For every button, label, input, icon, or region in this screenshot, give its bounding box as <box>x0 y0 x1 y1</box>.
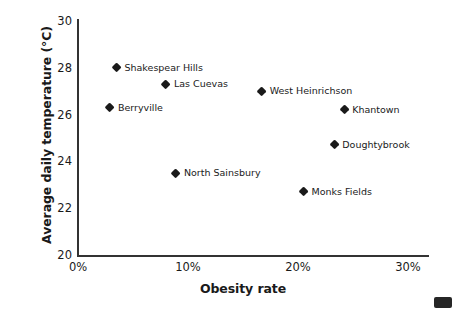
data-point-label: Monks Fields <box>312 185 372 199</box>
data-point-label: Doughtybrook <box>342 138 409 152</box>
diamond-marker-icon <box>257 86 267 96</box>
diamond-marker-icon <box>171 168 181 178</box>
data-point-label: West Heinrichson <box>270 84 353 98</box>
scatter-chart-figure: Shakespear HillsLas CuevasWest Heinrichs… <box>0 0 458 310</box>
y-axis-tick: 24 <box>8 154 72 168</box>
y-axis-line <box>77 19 79 257</box>
diamond-marker-icon <box>329 140 339 150</box>
y-axis-tick: 22 <box>8 201 72 215</box>
x-axis-tick-label: 0% <box>48 260 108 274</box>
diamond-marker-icon <box>161 79 171 89</box>
data-point-label: Shakespear Hills <box>125 61 203 75</box>
data-point-label: Berryville <box>118 101 163 115</box>
y-axis-title: Average daily temperature (°C) <box>32 0 62 270</box>
x-axis-tick-label: 10% <box>158 260 218 274</box>
y-axis-tick-label: 28 <box>12 61 72 75</box>
y-axis-tick: 28 <box>8 61 72 75</box>
x-axis-title: Obesity rate <box>78 281 408 296</box>
corner-artifact <box>434 297 452 308</box>
y-axis-tick-label: 22 <box>12 201 72 215</box>
diamond-marker-icon <box>111 63 121 73</box>
x-axis-line <box>77 255 429 257</box>
data-point-label: Las Cuevas <box>174 77 228 91</box>
y-axis-tick-label: 24 <box>12 154 72 168</box>
diamond-marker-icon <box>339 105 349 115</box>
data-point-label: North Sainsbury <box>184 166 261 180</box>
y-axis-tick-label: 30 <box>12 14 72 28</box>
y-axis-tick-label: 26 <box>12 108 72 122</box>
y-axis-tick: 30 <box>8 14 72 28</box>
diamond-marker-icon <box>298 187 308 197</box>
y-axis-tick: 26 <box>8 108 72 122</box>
x-axis-tick-label: 30% <box>378 260 438 274</box>
x-axis-tick-label: 20% <box>268 260 328 274</box>
data-point-label: Khantown <box>352 103 399 117</box>
diamond-marker-icon <box>105 102 115 112</box>
